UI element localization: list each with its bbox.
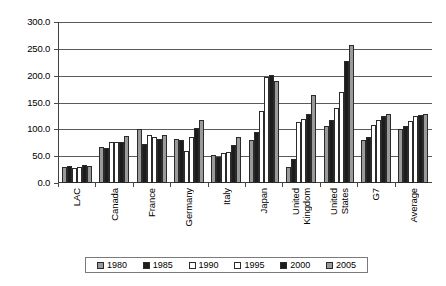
bar-group — [357, 22, 394, 183]
bar-group — [58, 22, 95, 183]
legend-swatch-icon — [97, 262, 104, 269]
legend-item[interactable]: 1980 — [97, 261, 127, 270]
x-axis-category-label: Average — [408, 188, 419, 250]
bar — [311, 95, 316, 183]
x-axis-category-label: Japan — [258, 188, 269, 250]
y-axis-tick-label: 150.0 — [27, 98, 50, 108]
y-axis-tick-label: 300.0 — [27, 17, 50, 27]
x-axis-category-line: Italy — [221, 188, 232, 205]
x-axis-labels: LACCanadaFranceGermanyItalyJapanUnitedKi… — [58, 186, 432, 252]
bar-group — [282, 22, 319, 183]
bar-group — [95, 22, 132, 183]
legend-label: 2005 — [336, 261, 356, 270]
legend-swatch-icon — [280, 262, 287, 269]
legend-label: 1995 — [244, 261, 264, 270]
bar-group — [170, 22, 207, 183]
legend-swatch-icon — [143, 262, 150, 269]
chart-legend: 198019851990199520002005 — [85, 257, 368, 273]
x-axis-category-line: United — [290, 188, 301, 215]
legend-item[interactable]: 1990 — [189, 261, 219, 270]
bar — [236, 137, 241, 183]
legend-label: 2000 — [290, 261, 310, 270]
bar-group — [245, 22, 282, 183]
x-axis-category-label: Italy — [221, 188, 232, 250]
bar — [124, 136, 129, 183]
x-axis-category-label: Germany — [183, 188, 194, 250]
plot-area — [58, 22, 432, 183]
x-axis-category-label: UnitedKingdom — [290, 188, 312, 250]
bar-group — [320, 22, 357, 183]
y-axis: 300.0250.0200.0150.0100.050.00.0 — [0, 22, 54, 183]
bar-group — [208, 22, 245, 183]
bar — [349, 45, 354, 183]
bar-groups — [58, 22, 432, 183]
bar — [87, 166, 92, 183]
legend-item[interactable]: 1985 — [143, 261, 173, 270]
y-axis-tick-label: 200.0 — [27, 71, 50, 81]
y-axis-tick-label: 250.0 — [27, 44, 50, 54]
legend-swatch-icon — [189, 262, 196, 269]
legend-item[interactable]: 1995 — [234, 261, 264, 270]
x-axis-category-line: Average — [408, 188, 419, 223]
x-axis-category-label: France — [146, 188, 157, 250]
legend-item[interactable]: 2000 — [280, 261, 310, 270]
bar — [423, 114, 428, 183]
x-axis-category-label: Canada — [109, 188, 120, 250]
x-axis-category-line: States — [339, 188, 350, 214]
x-axis-category-line: France — [146, 188, 157, 217]
bar — [386, 114, 391, 183]
legend-swatch-icon — [234, 262, 241, 269]
x-axis-category-line: Germany — [183, 188, 194, 226]
y-axis-tick-label: 100.0 — [27, 124, 50, 134]
bar-group — [395, 22, 432, 183]
x-axis-category-label: G7 — [370, 188, 381, 250]
x-axis-category-line: Kingdom — [301, 188, 312, 225]
legend-label: 1980 — [107, 261, 127, 270]
legend-label: 1985 — [153, 261, 173, 270]
bar — [199, 120, 204, 183]
bar-chart: 300.0250.0200.0150.0100.050.00.0 LACCana… — [0, 0, 446, 286]
y-axis-tick-label: 50.0 — [32, 151, 50, 161]
x-axis-category-line: G7 — [370, 188, 381, 200]
x-axis-category-line: Canada — [109, 188, 120, 221]
x-axis-category-label: UnitedStates — [328, 188, 350, 250]
x-axis-category-line: LAC — [71, 188, 82, 206]
x-axis-category-label: LAC — [71, 188, 82, 250]
y-axis-tick-label: 0.0 — [37, 178, 50, 188]
x-axis-category-line: United — [328, 188, 339, 215]
legend-item[interactable]: 2005 — [326, 261, 356, 270]
bar — [274, 81, 279, 183]
bar — [162, 135, 167, 183]
legend-label: 1990 — [199, 261, 219, 270]
legend-swatch-icon — [326, 262, 333, 269]
bar-group — [133, 22, 170, 183]
x-axis-category-line: Japan — [258, 188, 269, 213]
